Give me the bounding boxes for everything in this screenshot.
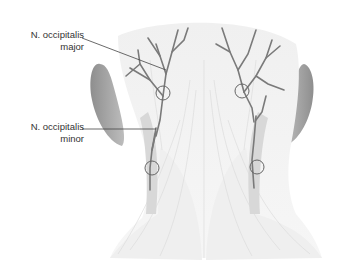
label-major-line1: N. occipitalis xyxy=(8,29,84,41)
label-major-line2: major xyxy=(8,41,84,53)
left-ear xyxy=(90,64,124,146)
anatomy-figure: N. occipitalis major N. occipitalis mino… xyxy=(0,0,337,272)
label-n-occipitalis-major: N. occipitalis major xyxy=(8,29,84,53)
label-minor-line1: N. occipitalis xyxy=(8,121,84,133)
label-n-occipitalis-minor: N. occipitalis minor xyxy=(8,121,84,145)
label-minor-line2: minor xyxy=(8,133,84,145)
